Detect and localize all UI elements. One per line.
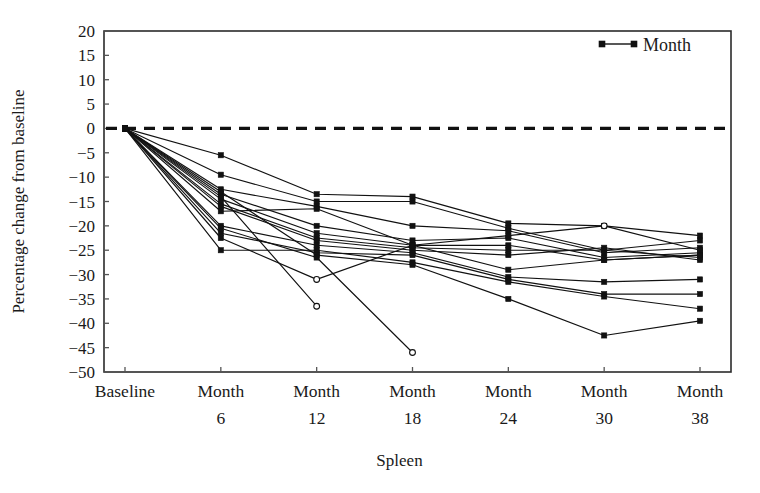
y-tick-label: −30 (68, 266, 95, 285)
data-point-marker (314, 243, 319, 248)
data-point-marker (410, 199, 415, 204)
data-point-marker (602, 279, 607, 284)
x-category-label: Month (197, 381, 244, 401)
x-category-sublabel: 24 (500, 408, 518, 428)
data-point-marker (602, 333, 607, 338)
data-point-marker (410, 238, 415, 243)
y-tick-label: −40 (68, 314, 95, 333)
y-tick-label: −5 (77, 144, 95, 163)
data-point-marker (506, 243, 511, 248)
data-point-marker (697, 291, 702, 296)
x-category-label: Month (485, 381, 532, 401)
x-category-sublabel: 6 (216, 408, 225, 428)
x-category-sublabel: 38 (691, 408, 709, 428)
x-category-sublabel: 30 (595, 408, 613, 428)
x-category-label: Baseline (95, 381, 155, 401)
data-point-marker (506, 296, 511, 301)
x-category-label: Month (293, 381, 340, 401)
data-point-marker (314, 192, 319, 197)
data-point-marker (218, 204, 223, 209)
data-point-marker (506, 221, 511, 226)
data-point-marker (314, 206, 319, 211)
data-point-marker (602, 245, 607, 250)
x-axis-title: Spleen (376, 451, 423, 470)
data-point-marker (506, 279, 511, 284)
data-point-marker (218, 248, 223, 253)
y-tick-label: 20 (78, 22, 95, 41)
data-point-marker (218, 153, 223, 158)
x-category-sublabel: 12 (308, 408, 326, 428)
data-point-marker (218, 209, 223, 214)
data-point-marker (218, 194, 223, 199)
data-point-marker (410, 194, 415, 199)
data-point-marker (314, 223, 319, 228)
spleen-change-chart: 20151050−5−10−15−20−25−30−35−40−45−50 Ba… (0, 0, 760, 493)
data-point-marker (314, 248, 319, 253)
data-point-marker (314, 231, 319, 236)
y-tick-label: −20 (68, 217, 95, 236)
x-category-label: Month (677, 381, 724, 401)
data-point-marker (506, 267, 511, 272)
data-point-marker (218, 172, 223, 177)
data-point-marker (410, 243, 415, 248)
data-point-marker (506, 228, 511, 233)
data-point-marker (697, 252, 702, 257)
data-point-marker (314, 255, 319, 260)
data-point-marker (506, 233, 511, 238)
data-point-marker (697, 233, 702, 238)
data-point-marker (314, 238, 319, 243)
legend-marker-end (631, 41, 637, 47)
y-tick-label: −45 (68, 339, 95, 358)
data-point-marker (314, 199, 319, 204)
x-category-sublabel: 18 (404, 408, 422, 428)
y-tick-label: 0 (87, 119, 96, 138)
data-point-marker (410, 262, 415, 267)
y-tick-label: −25 (68, 241, 95, 260)
y-tick-label: −50 (68, 363, 95, 382)
data-point-marker-open (314, 303, 320, 309)
y-tick-label: −10 (68, 168, 95, 187)
x-category-label: Month (389, 381, 436, 401)
data-point-marker (218, 189, 223, 194)
data-point-marker (506, 252, 511, 257)
y-axis-title: Percentage change from baseline (9, 89, 28, 313)
y-tick-label: 5 (87, 95, 96, 114)
data-point-marker (218, 226, 223, 231)
data-point-marker (697, 277, 702, 282)
data-point-marker (697, 257, 702, 262)
legend-label: Month (643, 35, 691, 55)
data-point-marker (697, 306, 702, 311)
y-tick-label: −15 (68, 193, 95, 212)
y-tick-label: 10 (78, 71, 95, 90)
data-point-marker (602, 294, 607, 299)
data-point-marker (506, 248, 511, 253)
data-point-marker (122, 126, 127, 131)
data-point-marker (218, 231, 223, 236)
y-tick-label: −35 (68, 290, 95, 309)
data-point-marker-open (314, 277, 320, 283)
data-point-marker-open (601, 223, 607, 229)
legend-marker-start (599, 41, 605, 47)
data-point-marker (697, 238, 702, 243)
x-category-label: Month (581, 381, 628, 401)
data-point-marker (218, 235, 223, 240)
figure-container: 20151050−5−10−15−20−25−30−35−40−45−50 Ba… (0, 0, 760, 493)
data-point-marker (602, 257, 607, 262)
data-point-marker (410, 223, 415, 228)
data-point-marker-open (410, 350, 416, 356)
data-point-marker (410, 252, 415, 257)
y-tick-label: 15 (78, 46, 95, 65)
data-point-marker (697, 248, 702, 253)
data-point-marker (697, 318, 702, 323)
